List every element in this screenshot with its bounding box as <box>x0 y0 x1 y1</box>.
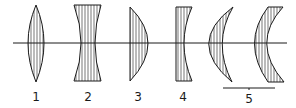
label-lens-3: 3 <box>134 90 142 104</box>
label-lens-2: 2 <box>84 90 92 104</box>
lens-positive-meniscus <box>209 7 233 82</box>
label-lens-1: 1 <box>32 90 40 104</box>
lens-negative-meniscus <box>255 7 285 82</box>
lens-plano-convex <box>130 7 148 81</box>
lens-plano-concave <box>176 7 192 81</box>
label-lens-4: 4 <box>179 90 187 104</box>
group-bracket <box>223 88 275 90</box>
label-group-5: 5 <box>245 92 253 106</box>
lens-diagram: 1 2 3 4 5 <box>0 0 296 108</box>
